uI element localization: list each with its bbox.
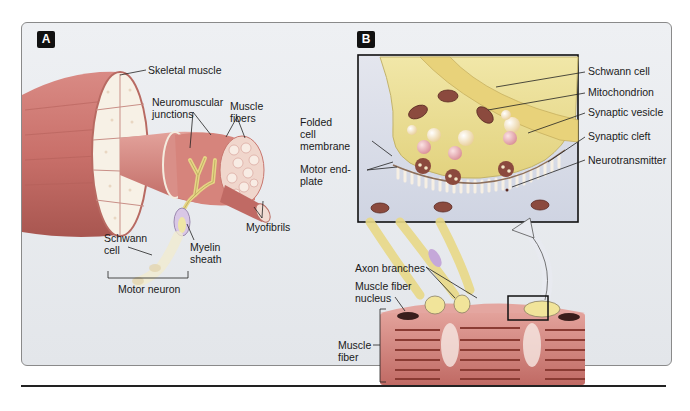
label-myelin-sheath-2: sheath (190, 253, 222, 265)
label-myofibrils: Myofibrils (246, 221, 290, 233)
label-muscle-fiber-nucleus-1: Muscle fiber (355, 280, 412, 292)
label-schwann-cell-a-1: Schwann (104, 232, 147, 244)
label-neurotransmitter: Neurotransmitter (588, 154, 666, 166)
label-mitochondrion: Mitochondrion (588, 86, 654, 98)
bottom-rule (21, 385, 666, 387)
panel-a-badge: A (37, 31, 55, 48)
label-muscle-fibers-1: Muscle (230, 100, 263, 112)
label-muscle-fiber-nucleus-2: nucleus (355, 292, 391, 304)
label-schwann-cell-a-2: cell (104, 244, 120, 256)
label-skeletal-muscle: Skeletal muscle (148, 64, 222, 76)
panel-b-badge: B (357, 31, 375, 48)
label-axon-branches: Axon branches (355, 262, 425, 274)
label-neuromuscular-junctions-2: junctions (152, 108, 193, 120)
label-synaptic-cleft: Synaptic cleft (588, 130, 650, 142)
label-folded-cell-membrane-2: cell (300, 128, 316, 140)
panel-b-art (358, 55, 585, 385)
label-folded-cell-membrane-1: Folded (300, 116, 332, 128)
label-synaptic-vesicle: Synaptic vesicle (588, 106, 663, 118)
label-neuromuscular-junctions-1: Neuromuscular (152, 96, 223, 108)
label-muscle-fiber-1: Muscle (338, 339, 371, 351)
label-schwann-cell-b: Schwann cell (588, 65, 650, 77)
label-motor-neuron: Motor neuron (118, 283, 180, 295)
label-motor-end-plate-2: plate (300, 175, 323, 187)
label-muscle-fiber-2: fiber (338, 351, 358, 363)
label-muscle-fibers-2: fibers (230, 112, 256, 124)
label-myelin-sheath-1: Myelin (190, 241, 220, 253)
label-motor-end-plate-1: Motor end- (300, 163, 351, 175)
label-folded-cell-membrane-3: membrane (300, 140, 350, 152)
